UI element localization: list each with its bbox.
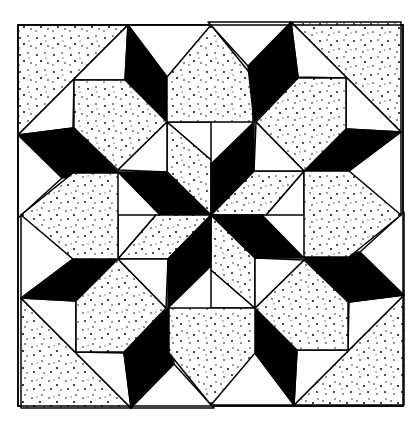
quilt-block [0, 0, 420, 434]
